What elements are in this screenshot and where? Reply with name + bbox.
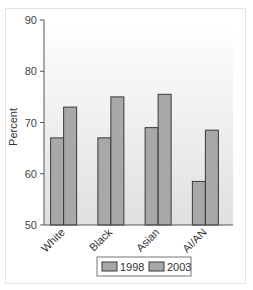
bar-1998-AIAN [192, 181, 205, 225]
bar-2003-Black [111, 97, 124, 225]
bar-1998-Black [98, 138, 111, 225]
bar-1998-White [51, 138, 64, 225]
bar-chart: 5060708090 WhiteBlackAsianAI/AN Percent … [0, 0, 253, 290]
legend-label-1998: 1998 [120, 261, 144, 273]
bar-2003-AIAN [205, 130, 218, 225]
legend-label-2003: 2003 [167, 261, 191, 273]
x-category-label: White [39, 226, 67, 254]
y-tick-label: 80 [25, 65, 37, 77]
bar-2003-Asian [158, 94, 171, 225]
x-category-label: Black [87, 226, 115, 254]
legend: 19982003 [97, 257, 191, 276]
x-axis: WhiteBlackAsianAI/AN [39, 225, 233, 255]
y-axis-title: Percent [7, 108, 19, 146]
y-tick-label: 90 [25, 14, 37, 26]
y-axis: 5060708090 [25, 14, 44, 231]
bar-2003-White [64, 107, 77, 225]
x-category-label: AI/AN [180, 226, 209, 255]
y-tick-label: 50 [25, 219, 37, 231]
y-tick-label: 60 [25, 168, 37, 180]
x-category-label: Asian [134, 226, 162, 254]
legend-swatch-2003 [149, 262, 164, 271]
legend-swatch-1998 [102, 262, 117, 271]
y-tick-label: 70 [25, 117, 37, 129]
bar-1998-Asian [145, 128, 158, 225]
